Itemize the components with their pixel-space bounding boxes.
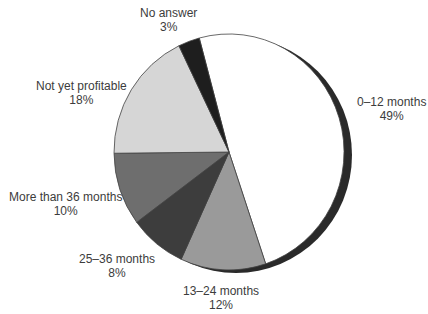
slice-label-name: 0–12 months <box>357 95 426 109</box>
label-not-yet-profitable: Not yet profitable 18% <box>36 79 127 107</box>
label-no-answer: No answer 3% <box>140 6 197 34</box>
slice-label-name: More than 36 months <box>9 190 122 204</box>
label-more-than-36-months: More than 36 months 10% <box>9 190 122 218</box>
label-13-24-months: 13–24 months 12% <box>183 284 259 312</box>
slice-label-name: 25–36 months <box>79 252 155 266</box>
label-0-12-months: 0–12 months 49% <box>357 95 426 123</box>
slice-label-name: No answer <box>140 6 197 20</box>
slice-label-percent: 18% <box>36 93 127 107</box>
pie-slices <box>114 34 344 270</box>
slice-label-percent: 10% <box>9 204 122 218</box>
label-25-36-months: 25–36 months 8% <box>79 252 155 280</box>
pie-chart <box>0 0 428 314</box>
slice-label-percent: 8% <box>79 266 155 280</box>
slice-label-percent: 12% <box>183 298 259 312</box>
slice-label-percent: 3% <box>140 20 197 34</box>
slice-label-name: 13–24 months <box>183 284 259 298</box>
slice-label-percent: 49% <box>357 109 426 123</box>
slice-label-name: Not yet profitable <box>36 79 127 93</box>
